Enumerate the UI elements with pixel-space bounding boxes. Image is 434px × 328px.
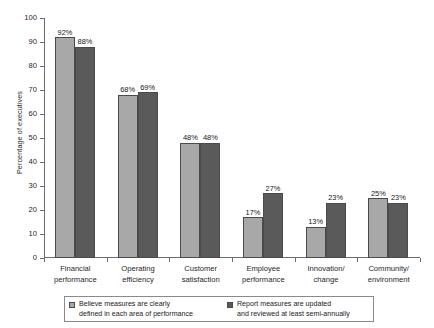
x-axis-tick-mark — [232, 258, 233, 262]
bar: 17% — [243, 217, 263, 258]
bar-group: 25%23% — [357, 18, 420, 258]
y-axis-tick-label: 90 — [3, 37, 37, 46]
bar-group: 48%48% — [169, 18, 232, 258]
x-axis-tick-mark — [169, 258, 170, 262]
y-axis-tick-label: 50 — [3, 133, 37, 142]
legend-entry: Believe measures are clearly defined in … — [69, 300, 193, 319]
bar: 92% — [55, 37, 75, 258]
legend: Believe measures are clearly defined in … — [64, 296, 374, 322]
legend-label: Report measures are updated and reviewed… — [237, 300, 350, 319]
y-axis-tick-label: 80 — [3, 61, 37, 70]
plot-area: 0102030405060708090100 92%88%68%69%48%48… — [44, 18, 420, 258]
y-axis-tick-label: 30 — [3, 181, 37, 190]
bar-group: 17%27% — [232, 18, 295, 258]
bar-chart: Percentage of executives 010203040506070… — [0, 0, 434, 328]
bar: 48% — [180, 143, 200, 258]
x-axis-category-label: Community/ environment — [346, 264, 432, 285]
x-axis-tick-mark — [357, 258, 358, 262]
bar-value-label: 48% — [183, 133, 198, 142]
legend-label: Believe measures are clearly defined in … — [79, 300, 193, 319]
bar-value-label: 88% — [78, 37, 93, 46]
x-axis-tick-mark — [295, 258, 296, 262]
bar-group: 68%69% — [107, 18, 170, 258]
bar-value-label: 27% — [266, 184, 281, 193]
y-axis-tick-label: 100 — [3, 13, 37, 22]
bar: 23% — [326, 203, 346, 258]
bar: 23% — [388, 203, 408, 258]
bar-value-label: 23% — [328, 193, 343, 202]
x-axis-tick-mark — [107, 258, 108, 262]
bar: 27% — [263, 193, 283, 258]
bar-value-label: 92% — [58, 28, 73, 37]
bar-value-label: 17% — [246, 208, 261, 217]
y-axis-tick-label: 20 — [3, 205, 37, 214]
legend-swatch — [227, 302, 233, 308]
bar: 68% — [118, 95, 138, 258]
bar-value-label: 69% — [140, 83, 155, 92]
bar-value-label: 68% — [120, 85, 135, 94]
y-axis-tick-label: 0 — [3, 253, 37, 262]
legend-swatch — [69, 302, 75, 308]
bar-group: 92%88% — [44, 18, 107, 258]
bar-value-label: 13% — [308, 217, 323, 226]
bar: 48% — [200, 143, 220, 258]
bar: 88% — [75, 47, 95, 258]
bar-value-label: 23% — [391, 193, 406, 202]
bar: 25% — [368, 198, 388, 258]
y-axis-tick-label: 10 — [3, 229, 37, 238]
bar-group: 13%23% — [295, 18, 358, 258]
x-axis-tick-mark — [44, 258, 45, 262]
bar-value-label: 25% — [371, 189, 386, 198]
bar: 13% — [306, 227, 326, 258]
y-axis-tick-label: 40 — [3, 157, 37, 166]
y-axis-tick-label: 60 — [3, 109, 37, 118]
bar-value-label: 48% — [203, 133, 218, 142]
y-axis-tick-label: 70 — [3, 85, 37, 94]
x-axis-tick-mark — [420, 258, 421, 262]
bar: 69% — [138, 92, 158, 258]
legend-entry: Report measures are updated and reviewed… — [227, 300, 350, 319]
